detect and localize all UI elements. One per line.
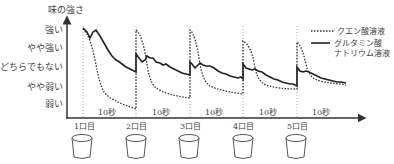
sip-label-4: 4口目 <box>233 122 254 131</box>
cup-icon <box>126 135 146 159</box>
interval-label: 10秒 <box>259 107 277 117</box>
cup-icon <box>233 135 253 159</box>
cup-icons <box>72 135 306 159</box>
sip-label-5: 5口目 <box>287 122 308 131</box>
cup-icon <box>72 135 92 159</box>
series-msg <box>83 28 346 86</box>
legend: クエン酸溶液 グルタミン酸 ナトリウム溶液 <box>311 26 390 58</box>
y-level-somewhat-strong: やや強い <box>27 42 63 53</box>
y-level-strong: 強い <box>45 24 63 35</box>
legend-citric-label: クエン酸溶液 <box>337 26 385 36</box>
cup-icon <box>286 135 306 159</box>
y-level-weak: 弱い <box>45 99 63 109</box>
legend-msg-label-line1: グルタミン酸 <box>334 38 382 48</box>
y-level-somewhat-weak: やや弱い <box>27 82 63 92</box>
interval-label: 10秒 <box>98 107 116 117</box>
cup-icon <box>179 135 199 159</box>
interval-label: 10秒 <box>152 107 170 117</box>
interval-label: 10秒 <box>312 107 330 117</box>
legend-msg-label-line2: ナトリウム溶液 <box>334 48 390 58</box>
y-axis-title: 味の強さ <box>48 4 84 15</box>
interval-label: 10秒 <box>205 107 223 117</box>
sip-label-1: 1口目 <box>74 122 95 131</box>
sip-label-3: 3口目 <box>180 122 201 131</box>
taste-intensity-chart: 味の強さ 強い やや強い どちらでもない やや弱い 弱い 10秒 10秒 10秒… <box>0 0 394 164</box>
sip-label-2: 2口目 <box>126 122 147 131</box>
y-level-neutral: どちらでもない <box>0 62 63 72</box>
